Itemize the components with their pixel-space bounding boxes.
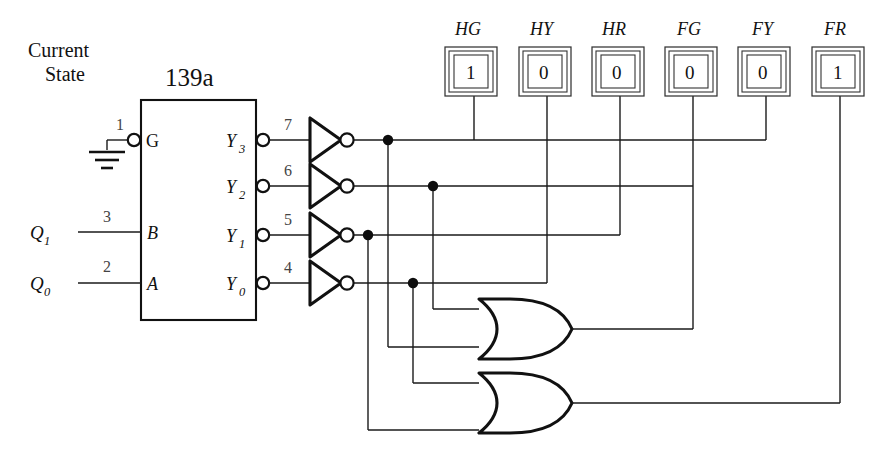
led-label-hg: HG [454,19,481,39]
schematic-svg: Current State 139a 1 3 2 G B A Q 1 Q 0 Y… [0,0,893,463]
signal-label-q1: Q 1 [30,222,50,248]
inverter-y1[interactable] [310,213,620,257]
led-value-hg: 1 [466,62,476,83]
led-value-hy: 0 [539,62,549,83]
pin-number-5: 5 [284,211,292,228]
current-state-line2: State [45,63,85,85]
chip-port-y2-subscript: 2 [239,188,245,202]
inverter-y3[interactable] [310,118,766,162]
net-y0bar [408,278,479,383]
net-y1bar [363,230,479,430]
junction-dot [383,135,393,145]
or-gate-upper[interactable] [479,299,693,359]
junction-dot [408,278,418,288]
led-value-fr: 1 [833,62,843,83]
pin-number-7: 7 [284,116,292,133]
led-value-hr: 0 [612,62,622,83]
y0-pin-bubble-icon [257,277,269,289]
junction-dot [363,230,373,240]
led-label-fr: FR [823,19,846,39]
led-value-fy: 0 [758,62,768,83]
circuit-diagram-canvas: Current State 139a 1 3 2 G B A Q 1 Q 0 Y… [0,0,893,463]
net-y2bar [428,181,479,309]
chip-port-y3-subscript: 3 [238,142,245,156]
led-label-hy: HY [529,19,555,39]
pin-number-6: 6 [284,162,292,179]
led-label-hr: HR [601,19,626,39]
or-gate-lower[interactable] [479,373,840,433]
pin-number-3: 3 [103,208,111,225]
led-label-fg: FG [676,19,701,39]
signal-q0-name: Q [30,273,44,294]
ground-symbol [89,140,128,168]
led-label-fy: FY [751,19,775,39]
y3-pin-bubble-icon [257,134,269,146]
inverter-y2[interactable] [310,164,693,208]
chip-name-label: 139a [165,64,214,91]
signal-q1-subscript: 1 [44,234,50,248]
current-state-line1: Current [28,39,90,61]
y2-pin-bubble-icon [257,180,269,192]
net-y3bar [383,135,479,347]
signal-q0-subscript: 0 [44,285,51,299]
g-input-bubble-icon [128,134,140,146]
pin-number-1: 1 [116,116,124,133]
chip-port-y1-subscript: 1 [239,237,245,251]
chip-port-b: B [147,223,158,243]
pin-number-4: 4 [284,259,292,276]
chip-port-y0-subscript: 0 [239,285,246,299]
junction-dot [428,181,438,191]
pin-number-2: 2 [103,258,111,275]
chip-port-g: G [146,131,159,151]
y1-pin-bubble-icon [257,229,269,241]
led-value-fg: 0 [685,62,695,83]
signal-q1-name: Q [30,222,44,243]
signal-label-q0: Q 0 [30,273,51,299]
chip-port-a: A [146,274,159,294]
